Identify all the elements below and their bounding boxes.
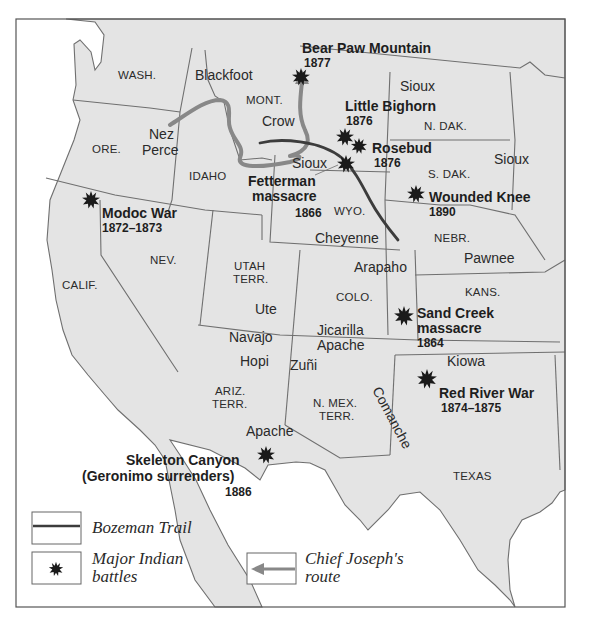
battle-label-red-river: Red River War bbox=[439, 385, 535, 401]
state-label-texas: TEXAS bbox=[453, 470, 492, 482]
state-label-ore: ORE. bbox=[92, 143, 121, 155]
battle-label-rosebud: Rosebud bbox=[372, 140, 432, 156]
state-label-ariz: ARIZ. bbox=[215, 385, 245, 397]
battle-year-sand-creek: 1864 bbox=[417, 336, 444, 350]
state-label-mont: MONT. bbox=[246, 94, 283, 106]
battle-year-fetterman: 1866 bbox=[295, 206, 322, 220]
state-label-utah: UTAH bbox=[234, 260, 265, 272]
state-label-idaho: IDAHO bbox=[189, 170, 226, 182]
state-label-kans: KANS. bbox=[465, 286, 501, 298]
tribe-label-sioux-wy: Sioux bbox=[292, 155, 327, 171]
battle-year-modoc: 1872–1873 bbox=[102, 221, 162, 235]
tribe-label-sioux-sd: Sioux bbox=[494, 151, 529, 167]
battle-year-rosebud: 1876 bbox=[374, 156, 401, 170]
battle-year-red-river: 1874–1875 bbox=[441, 401, 501, 415]
tribe-label-nez: Nez bbox=[149, 126, 174, 142]
state-label-utah-terr: TERR. bbox=[233, 273, 269, 285]
tribe-label-jicarilla: Jicarilla bbox=[317, 322, 364, 338]
battle-year-wounded-knee: 1890 bbox=[429, 205, 456, 219]
tribe-label-jicarilla-apache: Apache bbox=[317, 337, 365, 353]
battle-label-modoc: Modoc War bbox=[102, 205, 177, 221]
state-label-nev: NEV. bbox=[150, 254, 177, 266]
state-label-calif: CALIF. bbox=[62, 279, 98, 291]
tribe-label-kiowa: Kiowa bbox=[447, 353, 485, 369]
state-label-sdak: S. DAK. bbox=[428, 168, 470, 180]
tribe-label-blackfoot: Blackfoot bbox=[195, 67, 253, 83]
state-label-nebr: NEBR. bbox=[434, 232, 470, 244]
tribe-label-hopi: Hopi bbox=[240, 353, 269, 369]
tribe-label-ute: Ute bbox=[255, 301, 277, 317]
battle-label-bear-paw: Bear Paw Mountain bbox=[302, 40, 431, 56]
legend-label-joseph-2: route bbox=[305, 567, 341, 586]
battle-label-fetterman-2: massacre bbox=[252, 188, 317, 204]
battle-label-little-bighorn: Little Bighorn bbox=[345, 98, 436, 114]
legend-label-battles-2: battles bbox=[92, 567, 138, 586]
legend-label-joseph-1: Chief Joseph's bbox=[305, 549, 404, 568]
tribe-label-arapaho: Arapaho bbox=[354, 259, 407, 275]
tribe-label-perce: Perce bbox=[142, 142, 179, 158]
tribe-label-sioux-nd: Sioux bbox=[400, 78, 435, 94]
legend-label-bozeman: Bozeman Trail bbox=[92, 518, 192, 537]
state-label-ariz-terr: TERR. bbox=[212, 398, 248, 410]
battle-label-skeleton: Skeleton Canyon bbox=[126, 452, 240, 468]
western-us-indian-wars-map: WASH. ORE. IDAHO MONT. WYO. N. DAK. S. D… bbox=[0, 0, 589, 619]
state-label-nmex-terr: TERR. bbox=[319, 410, 355, 422]
battle-label-sand-creek: Sand Creek bbox=[417, 305, 494, 321]
battle-label-sand-creek-2: massacre bbox=[417, 320, 482, 336]
battle-year-little-bighorn: 1876 bbox=[346, 114, 373, 128]
battle-year-bear-paw: 1877 bbox=[304, 56, 331, 70]
state-label-ndak: N. DAK. bbox=[424, 120, 467, 132]
state-label-wash: WASH. bbox=[118, 69, 156, 81]
legend-label-battles-1: Major Indian bbox=[91, 549, 183, 568]
battle-label-fetterman: Fetterman bbox=[248, 173, 316, 189]
state-label-nmex: N. MEX. bbox=[313, 397, 357, 409]
battle-label-skeleton-2: (Geronimo surrenders) bbox=[82, 468, 234, 484]
tribe-label-navajo: Navajo bbox=[229, 329, 273, 345]
state-label-colo: COLO. bbox=[336, 291, 373, 303]
tribe-label-cheyenne: Cheyenne bbox=[315, 230, 379, 246]
tribe-label-apache: Apache bbox=[246, 423, 294, 439]
battle-year-skeleton: 1886 bbox=[225, 485, 252, 499]
state-label-wyo: WYO. bbox=[334, 205, 365, 217]
battle-label-wounded-knee: Wounded Knee bbox=[429, 189, 531, 205]
tribe-label-zuni: Zuñi bbox=[290, 357, 317, 373]
tribe-label-pawnee: Pawnee bbox=[464, 250, 515, 266]
tribe-label-crow: Crow bbox=[262, 113, 296, 129]
